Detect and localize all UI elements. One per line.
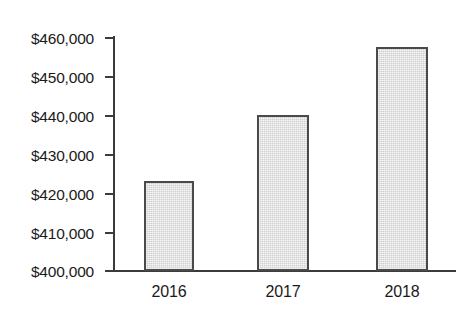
bar-2016	[144, 181, 194, 271]
y-tick-label-420000: $420,000	[0, 187, 94, 203]
y-tick-mark-410000	[105, 232, 114, 234]
bar-chart: $460,000 $450,000 $440,000 $430,000 $420…	[0, 0, 474, 314]
x-tick-label-2016: 2016	[119, 284, 219, 300]
y-tick-mark-400000	[105, 270, 114, 272]
y-tick-mark-420000	[105, 193, 114, 195]
y-tick-label-450000: $450,000	[0, 70, 94, 86]
y-tick-label-410000: $410,000	[0, 226, 94, 242]
y-tick-label-460000: $460,000	[0, 31, 94, 47]
y-tick-label-440000: $440,000	[0, 109, 94, 125]
y-tick-mark-430000	[105, 154, 114, 156]
x-tick-label-2017: 2017	[233, 284, 333, 300]
y-tick-label-430000: $430,000	[0, 148, 94, 164]
y-tick-mark-450000	[105, 76, 114, 78]
x-tick-label-2018: 2018	[352, 284, 452, 300]
y-tick-mark-440000	[105, 115, 114, 117]
y-tick-label-400000: $400,000	[0, 264, 94, 280]
y-tick-mark-460000	[105, 37, 114, 39]
bar-2018	[376, 47, 428, 271]
bar-2017	[257, 115, 309, 271]
